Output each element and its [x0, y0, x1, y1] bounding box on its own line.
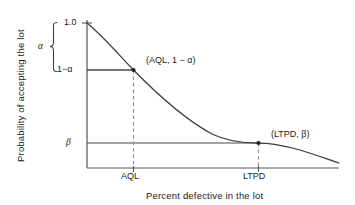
x-tick-label-aql: AQL — [121, 172, 139, 181]
y-tick-label-1-0: 1.0 — [64, 18, 77, 27]
y-tick-label-beta: β — [66, 138, 71, 148]
chart-plot-area — [0, 0, 355, 205]
alpha-brace-label: α — [38, 42, 43, 52]
alpha-brace-icon — [50, 23, 57, 72]
ltpd-point-marker — [256, 141, 260, 145]
aql-point-annotation: (AQL, 1 − α) — [146, 56, 195, 65]
y-tick-label-one-minus-alpha: 1−α — [57, 65, 72, 74]
x-tick-label-ltpd: LTPD — [243, 172, 265, 181]
oc-curve-figure: Probability of accepting the lot Percent… — [0, 0, 355, 205]
ltpd-point-annotation: (LTPD, β) — [271, 130, 310, 139]
aql-point-marker — [131, 68, 135, 72]
x-axis-title: Percent defective in the lot — [146, 191, 263, 201]
y-axis-title: Probability of accepting the lot — [16, 29, 26, 162]
oc-curve-line — [87, 23, 339, 163]
